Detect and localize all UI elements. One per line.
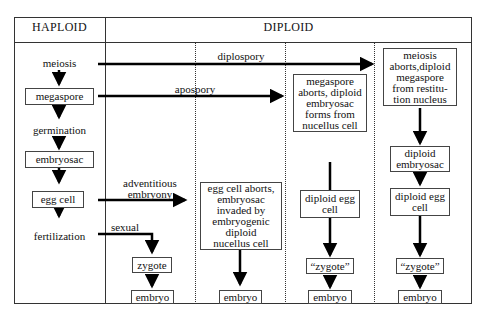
label-apospory: apospory [150, 84, 240, 95]
label-adventitious-embryony: adventitious embryony [108, 178, 192, 200]
box-diploid-egg-apospory: diploid egg cell [300, 190, 360, 218]
box-diploid-egg-apospory-label: diploid egg cell [305, 193, 355, 215]
box-embryosac-label: embryosac [36, 154, 84, 165]
box-meiosis-aborts: meiosis aborts,diploid megaspore from re… [383, 48, 457, 106]
box-zygote-apospory: “zygote” [306, 258, 354, 274]
box-zygote: zygote [132, 257, 172, 273]
box-megaspore-aborts: megaspore aborts, diploid embryosac form… [293, 74, 367, 132]
label-sexual: sexual [110, 222, 140, 233]
box-embryosac: embryosac [25, 151, 94, 168]
box-embryo-sexual-label: embryo [136, 292, 170, 303]
box-megaspore-label: megaspore [36, 91, 84, 102]
box-diploid-egg-diplospory: diploid egg cell [390, 188, 450, 216]
box-diploid-egg-diplospory-label: diploid egg cell [395, 191, 445, 213]
box-embryo-adventitious: embryo [219, 290, 262, 304]
box-megaspore: megaspore [25, 88, 94, 105]
label-diplospory: diplospory [196, 51, 286, 62]
box-diploid-embryosac: diploid embryosac [390, 146, 450, 172]
box-egg-cell-aborts: egg cell aborts, embryosac invaded by em… [200, 182, 282, 250]
box-egg-cell-label: egg cell [41, 194, 76, 205]
box-zygote-diplospory-label: “zygote” [400, 261, 439, 272]
box-zygote-apospory-label: “zygote” [310, 261, 349, 272]
box-egg-cell-aborts-label: egg cell aborts, embryosac invaded by em… [208, 183, 275, 249]
box-zygote-diplospory: “zygote” [396, 258, 444, 274]
box-embryo-apospory-label: embryo [313, 292, 347, 303]
box-embryo-sexual: embryo [131, 290, 174, 304]
box-meiosis-aborts-label: meiosis aborts,diploid megaspore from re… [390, 50, 451, 105]
box-zygote-label: zygote [137, 260, 166, 271]
box-embryo-apospory: embryo [308, 290, 352, 304]
box-embryo-diplospory: embryo [398, 290, 442, 304]
box-megaspore-aborts-label: megaspore aborts, diploid embryosac form… [298, 76, 362, 131]
step-fertilization: fertilization [14, 231, 105, 242]
box-embryo-adventitious-label: embryo [224, 292, 258, 303]
box-egg-cell: egg cell [32, 191, 84, 208]
box-diploid-embryosac-label: diploid embryosac [396, 148, 444, 170]
step-germination: germination [14, 125, 105, 136]
box-embryo-diplospory-label: embryo [403, 292, 437, 303]
step-meiosis: meiosis [14, 58, 105, 69]
